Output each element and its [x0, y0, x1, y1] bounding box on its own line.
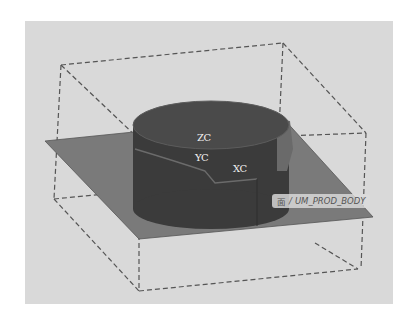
selection-tooltip: 面 / UM_PROD_BODY: [272, 194, 370, 208]
zc-axis-label: ZC: [197, 133, 211, 143]
yc-axis-label: YC: [195, 153, 208, 163]
tooltip-body-name: UM_PROD_BODY: [295, 196, 366, 206]
model-scene: [25, 21, 393, 304]
cylinder-body: [133, 101, 293, 229]
face-icon: 面: [277, 195, 286, 207]
xc-axis-label: XC: [233, 164, 247, 174]
tooltip-separator: /: [289, 196, 292, 206]
graphics-viewport[interactable]: ZC YC XC 面 / UM_PROD_BODY: [25, 21, 393, 304]
